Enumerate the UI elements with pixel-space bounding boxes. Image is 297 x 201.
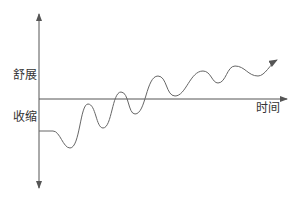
oscillation-curve [39,60,277,148]
wave-diagram [0,0,297,201]
time-label: 时间 [256,101,280,115]
contract-label: 收缩 [13,110,37,124]
expand-label: 舒展 [13,68,37,82]
